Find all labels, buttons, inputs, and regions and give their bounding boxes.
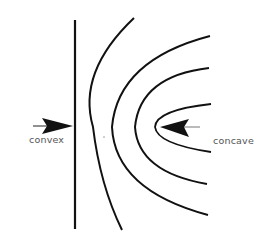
concave-label: concave	[213, 135, 254, 146]
second-curve	[112, 36, 210, 215]
concave-arrow	[160, 119, 200, 137]
convex-concave-diagram	[0, 0, 268, 244]
convex-label: convex	[29, 134, 64, 145]
convex-arrow	[33, 118, 73, 134]
concave-arrowhead-icon	[160, 119, 189, 137]
